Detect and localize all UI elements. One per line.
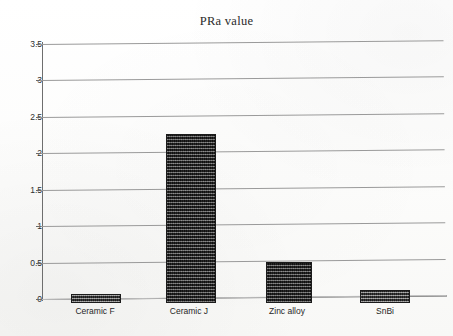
gridline-1-5 — [41, 186, 445, 191]
x-tick-label-snbi: SnBi — [338, 306, 432, 316]
gridline-3-5 — [40, 40, 444, 45]
bar-zinc-alloy — [266, 262, 312, 303]
gridline-3 — [40, 76, 444, 81]
x-tick-label-ceramic-j: Ceramic J — [142, 306, 236, 316]
bar-ceramic-f — [71, 294, 121, 303]
plot-area — [42, 40, 446, 303]
bar-ceramic-j — [166, 134, 216, 303]
y-axis-ticks: 3.5 3 2.5 2 1.5 1 0.5 0 — [0, 0, 42, 336]
gridline-2-5 — [40, 113, 444, 118]
gridline-0-5 — [42, 259, 446, 264]
page-title: PRa value — [0, 14, 453, 29]
x-tick-label-ceramic-f: Ceramic F — [48, 306, 142, 316]
gridlines — [39, 36, 446, 303]
bar-snbi — [360, 290, 410, 303]
gridline-2 — [41, 149, 445, 154]
x-tick-label-zinc-alloy: Zinc alloy — [240, 306, 334, 316]
gridline-1 — [41, 222, 445, 227]
chart-screenshot: PRa value 3.5 3 2.5 2 1.5 1 0.5 0 — [0, 0, 453, 336]
